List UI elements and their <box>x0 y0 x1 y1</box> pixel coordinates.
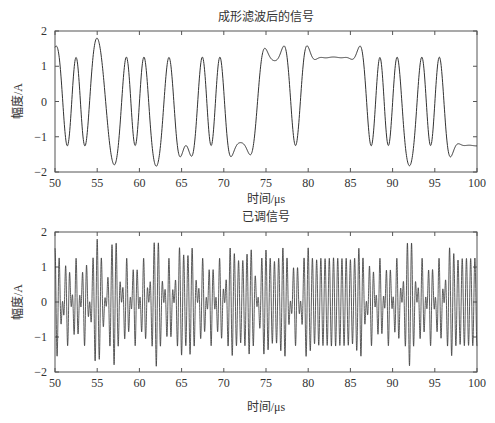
y-tick-label: −1 <box>34 330 47 344</box>
x-tick-label: 95 <box>429 376 441 390</box>
x-tick-label: 75 <box>260 376 272 390</box>
x-tick-label: 100 <box>468 176 486 190</box>
bottom-plot: 已调信号 50556065707580859095100 210−1−2 幅度/… <box>10 210 486 414</box>
y-tick-label: −2 <box>34 365 47 379</box>
x-tick-label: 70 <box>218 176 230 190</box>
x-tick-label: 50 <box>49 376 61 390</box>
x-tick-label: 80 <box>302 176 314 190</box>
x-tick-label: 65 <box>176 376 188 390</box>
x-tick-label: 60 <box>133 376 145 390</box>
y-tick-label: 0 <box>41 295 47 309</box>
bottom-x-axis-label: 时间/μs <box>247 400 286 414</box>
figure: 成形滤波后的信号 50556065707580859095100 210−1−2… <box>0 0 495 423</box>
bottom-plot-title: 已调信号 <box>242 210 290 224</box>
x-tick-label: 50 <box>49 176 61 190</box>
top-y-axis-label: 幅度/A <box>10 83 25 119</box>
x-tick-label: 85 <box>344 176 356 190</box>
x-tick-label: 95 <box>429 176 441 190</box>
x-tick-label: 80 <box>302 376 314 390</box>
top-y-ticks: 210−1−2 <box>34 24 477 179</box>
y-tick-label: 2 <box>41 225 47 239</box>
top-plot: 成形滤波后的信号 50556065707580859095100 210−1−2… <box>10 9 486 206</box>
x-tick-label: 90 <box>387 176 399 190</box>
bottom-y-axis-label: 幅度/A <box>10 284 25 320</box>
y-tick-label: 0 <box>41 95 47 109</box>
x-tick-label: 60 <box>133 176 145 190</box>
y-tick-label: −2 <box>34 165 47 179</box>
x-tick-label: 85 <box>344 376 356 390</box>
y-tick-label: 2 <box>41 24 47 38</box>
top-x-ticks: 50556065707580859095100 <box>49 31 486 190</box>
x-tick-label: 100 <box>468 376 486 390</box>
top-x-axis-label: 时间/μs <box>247 192 286 206</box>
x-tick-label: 75 <box>260 176 272 190</box>
y-tick-label: 1 <box>41 260 47 274</box>
top-plot-title: 成形滤波后的信号 <box>218 9 314 24</box>
modulated-signal-line <box>55 239 477 366</box>
y-tick-label: −1 <box>34 130 47 144</box>
x-tick-label: 55 <box>91 376 103 390</box>
top-plot-frame <box>55 31 477 172</box>
shaped-signal-line <box>55 38 477 166</box>
x-tick-label: 65 <box>176 176 188 190</box>
x-tick-label: 70 <box>218 376 230 390</box>
x-tick-label: 90 <box>387 376 399 390</box>
y-tick-label: 1 <box>41 59 47 73</box>
x-tick-label: 55 <box>91 176 103 190</box>
